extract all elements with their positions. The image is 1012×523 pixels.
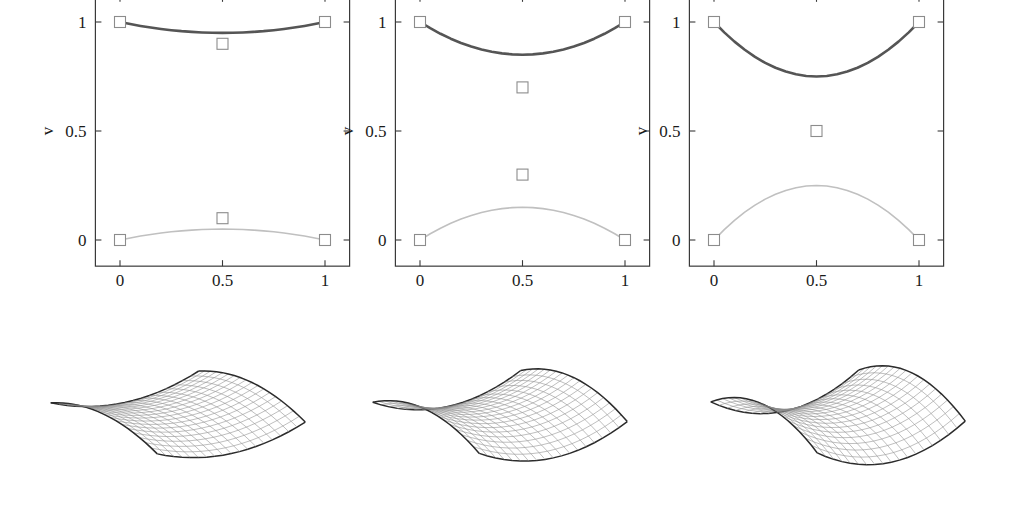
y-tick-label: 0.5 [365,122,386,141]
surface-gridline-v [826,390,933,445]
surface-gridline-v [141,398,248,449]
surface-boundary [157,422,305,458]
control-point-marker [115,17,126,28]
surface-gridline-u [379,370,527,409]
control-point-marker [914,235,925,246]
surface-plot-3 [668,296,1008,523]
y-axis-label: v [338,126,357,135]
curve-upper-curve [420,22,625,55]
parameter-plots-row: 00.5100.51uv 00.5100.51uv 00.5100.51uv [0,0,1012,300]
control-point-marker [217,213,228,224]
curve-lower-curve [420,207,625,240]
curve-upper-curve [714,22,919,77]
parameter-plot-2: 00.5100.51uv [336,0,666,300]
x-tick-label: 1 [321,271,330,290]
surface-gridline-u [104,382,252,418]
surface-mesh [373,369,628,461]
x-tick-label: 0 [416,271,425,290]
surface-gridline-v [793,405,900,460]
surface-svg-2 [330,296,670,523]
surface-gridline-v [818,395,925,450]
surface-svg-1 [8,296,348,523]
surface-gridline-u [426,378,574,417]
plot-frame [395,0,649,266]
plot-svg-2: 00.5100.51uv [336,0,666,300]
surface-gridline-v [496,385,603,438]
control-point-marker [415,17,426,28]
plot-svg-1: 00.5100.51uv [36,0,366,300]
x-tick-label: 0.5 [806,271,827,290]
surface-gridline-v [744,408,851,463]
surface-gridline-v [801,402,908,457]
figure-root: 00.5100.51uv 00.5100.51uv 00.5100.51uv [0,0,1012,523]
control-point-marker [709,17,720,28]
curve-upper-curve [120,22,325,33]
surface-gridline-v [389,405,496,458]
plot-svg-3: 00.5100.51uv [630,0,960,300]
x-tick-label: 1 [915,271,924,290]
control-point-marker [115,235,126,246]
y-tick-label: 1 [78,13,87,32]
y-tick-label: 0 [378,231,387,250]
control-point-marker [320,17,331,28]
control-point-marker [811,126,822,137]
y-tick-label: 1 [378,13,387,32]
control-point-marker [320,235,331,246]
x-tick-label: 1 [621,271,630,290]
control-point-marker [415,235,426,246]
control-point-marker [517,82,528,93]
control-point-marker [217,38,228,49]
control-point-marker [709,235,720,246]
control-point-marker [517,169,528,180]
surface-gridline-u [80,374,228,410]
y-tick-label: 0.5 [65,122,86,141]
surface-plot-2 [330,296,670,523]
surface-gridline-v [735,406,842,461]
parameter-plot-3: 00.5100.51uv [630,0,960,300]
x-tick-label: 0.5 [512,271,533,290]
parameter-plot-1: 00.5100.51uv [36,0,366,300]
curve-lower-curve [120,229,325,240]
surface-svg-3 [668,296,1008,523]
y-axis-label: v [632,126,651,135]
surface-plots-row [0,296,1012,523]
surface-gridline-u [746,367,894,411]
surface-gridline-v [504,380,611,433]
x-tick-label: 0.5 [212,271,233,290]
surface-plot-1 [8,296,348,523]
y-tick-label: 0 [78,231,87,250]
x-tick-label: 0 [116,271,125,290]
surface-gridline-v [397,407,504,460]
surface-mesh [51,371,306,458]
surface-boundary [199,371,306,422]
surface-mesh [711,366,966,465]
surface-gridline-v [842,379,949,434]
surface-gridline-u [728,366,876,410]
curve-lower-curve [714,186,919,241]
y-tick-label: 0.5 [659,122,680,141]
control-point-marker [620,17,631,28]
x-tick-label: 0 [710,271,719,290]
surface-gridline-v [851,373,958,428]
y-axis-label: v [38,126,57,135]
control-point-marker [914,17,925,28]
surface-gridline-u [723,367,871,411]
control-point-marker [620,235,631,246]
y-tick-label: 1 [672,13,681,32]
y-tick-label: 0 [672,231,681,250]
